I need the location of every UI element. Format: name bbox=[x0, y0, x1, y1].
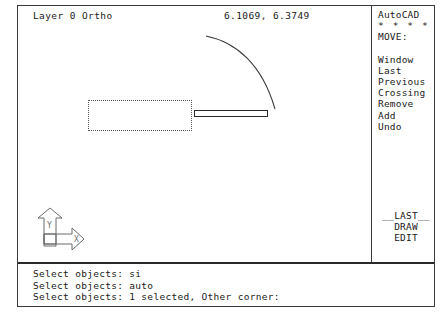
command-line-3: Select objects: 1 selected, Other corner… bbox=[33, 291, 280, 303]
side-menu-item-last-page[interactable]: __LAST__ bbox=[378, 210, 434, 221]
side-menu-item-remove[interactable]: Remove bbox=[378, 98, 434, 109]
side-menu-item-crossing[interactable]: Crossing bbox=[378, 87, 434, 98]
side-menu-title: AutoCAD bbox=[378, 9, 434, 20]
status-bar-layer-mode: Layer 0 Ortho bbox=[33, 10, 113, 21]
arc-entity[interactable] bbox=[200, 28, 300, 110]
side-menu-item-previous[interactable]: Previous bbox=[378, 76, 434, 87]
side-menu-spacer bbox=[378, 43, 434, 54]
status-bar-coordinates: 6.1069, 6.3749 bbox=[224, 10, 310, 21]
thin-bar-rectangle[interactable] bbox=[194, 110, 268, 117]
command-line-1: Select objects: si bbox=[33, 268, 280, 280]
ucs-x-label: X bbox=[74, 235, 79, 244]
selection-rectangle[interactable] bbox=[88, 100, 192, 131]
ucs-icon: Y X bbox=[33, 206, 95, 252]
side-menu-item-undo[interactable]: Undo bbox=[378, 121, 434, 132]
command-area-divider bbox=[18, 262, 434, 264]
command-area[interactable]: Select objects: si Select objects: auto … bbox=[33, 268, 280, 303]
side-menu-item-last[interactable]: Last bbox=[378, 65, 434, 76]
side-menu-divider bbox=[371, 6, 372, 262]
side-menu-stars[interactable]: * * * * bbox=[378, 20, 434, 31]
ucs-y-label: Y bbox=[47, 221, 52, 230]
side-menu-item-edit[interactable]: EDIT bbox=[378, 232, 434, 243]
side-menu-item-add[interactable]: Add bbox=[378, 110, 434, 121]
side-menu-item-draw[interactable]: DRAW bbox=[378, 221, 434, 232]
autocad-screen: Layer 0 Ortho 6.1069, 6.3749 AutoCAD * *… bbox=[0, 0, 441, 314]
command-line-2: Select objects: auto bbox=[33, 280, 280, 292]
side-menu: AutoCAD * * * * MOVE: Window Last Previo… bbox=[378, 9, 434, 132]
side-menu-active-command: MOVE: bbox=[378, 31, 434, 42]
side-menu-footer: __LAST__ DRAW EDIT bbox=[378, 210, 434, 244]
side-menu-item-window[interactable]: Window bbox=[378, 54, 434, 65]
